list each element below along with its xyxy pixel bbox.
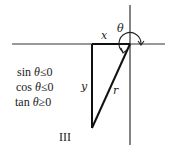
label-r: r <box>113 84 119 97</box>
quadrant-diagram: θ x y r sin θ≤0 cos θ≤0 tan θ≥0 III <box>0 0 178 155</box>
condition-sin: sin θ≤0 <box>17 65 53 79</box>
label-theta: θ <box>117 22 124 35</box>
quadrant-label: III <box>59 130 71 144</box>
label-y: y <box>80 80 88 93</box>
label-x: x <box>101 29 108 42</box>
sign-conditions: sin θ≤0 cos θ≤0 tan θ≥0 <box>15 65 54 109</box>
condition-cos: cos θ≤0 <box>16 80 54 94</box>
condition-tan: tan θ≥0 <box>15 95 51 109</box>
triangle-hypotenuse-r <box>92 44 130 128</box>
